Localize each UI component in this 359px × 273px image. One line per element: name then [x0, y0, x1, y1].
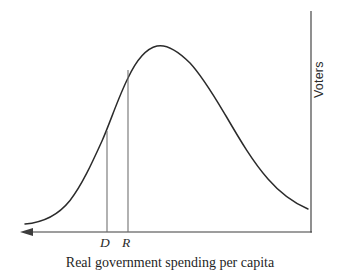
y-axis-label: Voters — [313, 38, 326, 98]
x-axis-arrow-icon — [20, 228, 33, 236]
distribution-curve — [25, 46, 308, 224]
x-axis-label: Real government spending per capita — [0, 255, 340, 270]
voter-distribution-figure: D R Voters Real government spending per … — [0, 0, 359, 273]
marker-label-r: R — [122, 236, 130, 250]
distribution-plot — [0, 0, 359, 273]
marker-label-d: D — [100, 236, 110, 250]
